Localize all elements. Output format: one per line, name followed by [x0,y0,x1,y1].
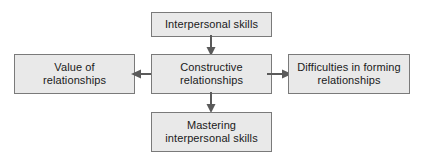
arrow-center-to-bottom [196,92,226,114]
node-constructive-relationships-label: Constructive relationships [177,61,246,88]
node-constructive-relationships: Constructive relationships [151,54,272,94]
node-value-of-relationships: Value of relationships [14,54,135,94]
node-mastering-interpersonal-skills: Mastering interpersonal skills [151,112,272,152]
node-difficulties-in-forming-relationships: Difficulties in forming relationships [288,54,410,94]
flowchart-diagram: Interpersonal skills Value of relationsh… [0,0,421,160]
node-difficulties-in-forming-relationships-label: Difficulties in forming relationships [294,61,404,88]
node-interpersonal-skills: Interpersonal skills [151,12,272,37]
node-mastering-interpersonal-skills-label: Mastering interpersonal skills [162,119,260,146]
node-interpersonal-skills-label: Interpersonal skills [162,18,261,32]
node-value-of-relationships-label: Value of relationships [40,61,109,88]
